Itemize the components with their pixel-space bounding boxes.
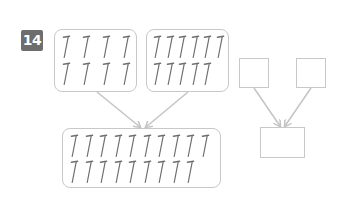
nail-icon	[113, 160, 123, 184]
nail-icon	[101, 35, 111, 59]
nail-icon	[127, 134, 137, 158]
arrow-right-to-total	[146, 92, 188, 127]
nail-icon	[215, 35, 225, 59]
nail-icon	[121, 62, 131, 86]
nail-icon	[185, 160, 195, 184]
nail-icon	[171, 134, 181, 158]
nail-row	[69, 160, 195, 184]
nail-icon	[156, 134, 166, 158]
nail-icon	[190, 62, 200, 86]
nail-icon	[69, 160, 79, 184]
nail-icon	[113, 134, 123, 158]
nail-group-a	[54, 29, 137, 92]
nail-icon	[152, 62, 162, 86]
nail-icon	[98, 134, 108, 158]
nail-icon	[177, 62, 187, 86]
nail-row	[61, 62, 131, 86]
arrow-addend-b-to-sum	[285, 88, 311, 126]
nail-icon	[61, 62, 71, 86]
nail-icon	[202, 35, 212, 59]
nail-group-b	[146, 29, 229, 92]
nail-icon	[81, 35, 91, 59]
nail-icon	[185, 134, 195, 158]
nail-icon	[171, 160, 181, 184]
nail-icon	[202, 62, 212, 86]
nail-icon	[190, 35, 200, 59]
nail-row	[61, 35, 131, 59]
nail-icon	[81, 62, 91, 86]
arrow-left-to-total	[97, 92, 140, 127]
nail-icon	[84, 134, 94, 158]
sum-answer-box[interactable]	[260, 127, 305, 158]
nail-group-total	[62, 128, 221, 188]
nail-icon	[101, 62, 111, 86]
nail-icon	[200, 134, 210, 158]
nail-row	[152, 62, 212, 86]
arrow-addend-a-to-sum	[254, 88, 280, 126]
nail-row	[152, 35, 225, 59]
nail-icon	[127, 160, 137, 184]
addend-a-answer-box[interactable]	[239, 58, 269, 88]
nail-icon	[142, 134, 152, 158]
addend-b-answer-box[interactable]	[296, 58, 326, 88]
nail-icon	[142, 160, 152, 184]
nail-icon	[61, 35, 71, 59]
nail-row	[69, 134, 210, 158]
nail-icon	[98, 160, 108, 184]
nail-icon	[165, 35, 175, 59]
nail-icon	[84, 160, 94, 184]
nail-icon	[69, 134, 79, 158]
nail-icon	[152, 35, 162, 59]
nail-icon	[121, 35, 131, 59]
nail-icon	[177, 35, 187, 59]
nail-icon	[165, 62, 175, 86]
nail-icon	[156, 160, 166, 184]
